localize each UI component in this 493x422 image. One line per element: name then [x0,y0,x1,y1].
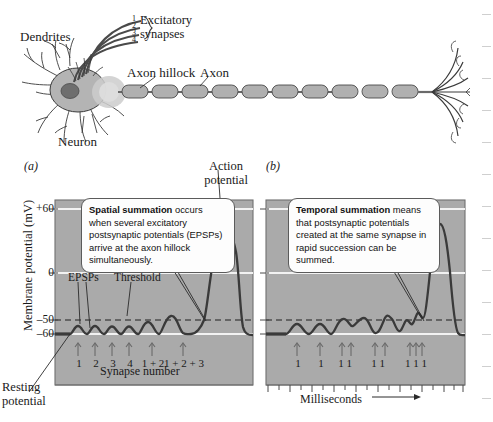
stimulus-label-b-3: 1 1 [334,357,356,369]
y-tick-minus-50: –50 [20,313,54,325]
neuron-diagram [0,0,493,155]
scan-edge-mark [482,78,491,79]
stimulus-label-a-1: 1 [71,357,87,369]
callout-spatial-summation: Spatial summation occurs when several ex… [81,198,235,273]
y-tick-plus-60: +60 [20,202,54,214]
callout-temporal-summation: Temporal summation means that postsynapt… [288,198,440,273]
scan-edge-mark [482,206,491,207]
scan-edge-mark [482,238,491,239]
axon-hillock-core [99,82,119,102]
scan-edge-mark [482,270,491,271]
scan-edge-mark [482,366,491,367]
panel-b-x-ticks [268,385,463,392]
label-axon: Axon [200,66,229,80]
stimulus-label-b-2: 1 [313,357,329,369]
label-dendrites: Dendrites [20,30,71,44]
scan-edge-mark [482,46,491,47]
panel-b-x-axis-label: Milliseconds [300,393,362,406]
scan-edge-mark [482,14,491,15]
label-excitatory-synapses: Excitatory synapses [140,13,230,41]
scan-edge-mark [482,398,491,399]
nucleus [61,84,79,99]
scan-edge-mark [482,110,491,111]
panel-a-x-axis-label: Synapse number [100,365,180,378]
label-neuron: Neuron [58,135,97,149]
callout-b-bold-term: Temporal summation [296,204,390,215]
stimulus-label-b-5: 1 1 1 [400,357,432,369]
annotation-resting-potential: Resting potential [2,380,72,408]
scan-edge-mark [482,174,491,175]
stimulus-label-b-4: 1 1 [367,357,389,369]
y-tick-minus-60: –60 [20,327,54,339]
stimulus-label-b-1: 1 [290,357,306,369]
scan-edge-mark [482,334,491,335]
summation-charts [0,152,493,422]
synapse-number-4: 4 [132,35,136,44]
scan-edge-mark [482,142,491,143]
scan-edge-mark [482,302,491,303]
callout-a-bold-term: Spatial summation [89,204,172,215]
annotation-action-potential: Action potential [196,160,256,188]
figure-container: Dendrites Neuron Axon hillock Axon Excit… [0,0,493,422]
label-axon-hillock: Axon hillock [127,66,195,80]
axon-terminal-arbor [432,48,470,136]
y-tick-zero: 0 [20,266,54,278]
milliseconds-arrow-head [414,394,421,400]
